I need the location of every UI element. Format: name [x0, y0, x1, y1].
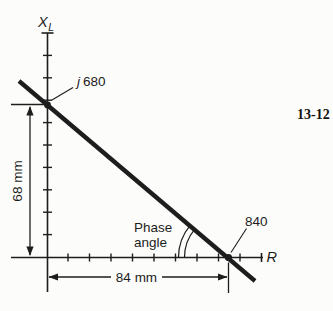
horizontal-dim-label: 84 mm — [116, 270, 157, 285]
phase-angle-label-line2: angle — [134, 235, 167, 250]
reactance-label: j680 — [75, 74, 106, 89]
vertical-dim-label: 68 mm — [10, 160, 25, 201]
figure-canvas: j680 840 Phase angle 68 mm 84 mm XL R 13… — [0, 0, 333, 311]
reactance-leader-line — [52, 88, 73, 101]
resistance-point — [225, 254, 232, 261]
axis-label-xl: XL — [37, 14, 54, 33]
axis-label-r: R — [267, 249, 278, 265]
resistance-label: 840 — [245, 214, 268, 229]
horizontal-dim-arrow-right — [218, 273, 228, 280]
vertical-dim-arrow-down — [26, 247, 33, 257]
figure-number: 13-12 — [297, 107, 330, 122]
phase-angle-arc-inner — [184, 229, 194, 257]
vertical-dim-arrow-up — [26, 106, 33, 116]
reactance-label-j: j — [75, 74, 81, 89]
horizontal-dim-arrow-left — [49, 273, 59, 280]
reactance-label-value: 680 — [83, 74, 106, 89]
phase-angle-label-line1: Phase — [134, 220, 172, 235]
axis-label-xl-sub: L — [48, 21, 54, 33]
impedance-diagram: j680 840 Phase angle 68 mm 84 mm XL R 13… — [0, 0, 333, 311]
impedance-line — [19, 81, 255, 281]
resistance-leader-line — [231, 229, 247, 253]
reactance-point — [44, 102, 51, 109]
